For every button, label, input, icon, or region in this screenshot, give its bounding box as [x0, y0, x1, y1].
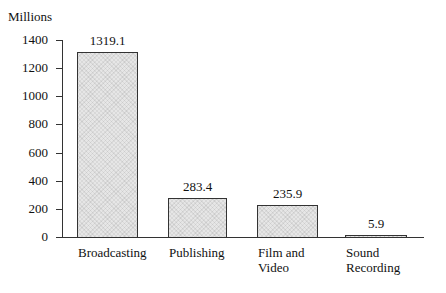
y-tick [56, 68, 62, 69]
category-label: Publishing [169, 245, 225, 260]
y-tick-label: 400 [8, 173, 48, 189]
y-tick-label: 800 [8, 116, 48, 132]
y-tick [56, 181, 62, 182]
bar-sound-recording [345, 235, 407, 238]
y-tick-label: 1200 [8, 60, 48, 76]
y-tick [56, 153, 62, 154]
y-tick-label: 200 [8, 201, 48, 217]
y-tick-label: 600 [8, 145, 48, 161]
value-label: 1319.1 [67, 33, 148, 49]
y-tick-label: 1400 [8, 32, 48, 48]
value-label: 235.9 [247, 186, 328, 202]
category-label: Broadcasting [78, 245, 147, 260]
y-tick-label: 0 [8, 229, 48, 245]
y-tick-label: 1000 [8, 88, 48, 104]
y-tick [56, 237, 62, 238]
y-tick [56, 40, 62, 41]
bar-publishing [168, 198, 227, 238]
y-axis-label: Millions [8, 9, 52, 25]
bar-film-and-video [257, 205, 318, 238]
y-tick [56, 96, 62, 97]
category-label: Film andVideo [258, 245, 305, 275]
value-label: 5.9 [335, 216, 417, 232]
value-label: 283.4 [158, 179, 237, 195]
bar-broadcasting [77, 52, 138, 238]
y-axis [62, 40, 63, 237]
category-label: SoundRecording [346, 245, 400, 275]
y-tick [56, 124, 62, 125]
y-tick [56, 209, 62, 210]
